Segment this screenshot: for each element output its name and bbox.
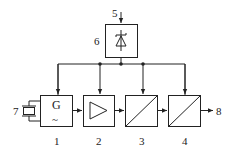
block-2-amplifier xyxy=(84,96,115,127)
generator-symbol: G xyxy=(52,98,61,112)
label-7: 7 xyxy=(13,105,19,117)
label-4: 4 xyxy=(182,135,188,147)
label-2: 2 xyxy=(96,135,102,147)
generator-tilde: ~ xyxy=(52,113,58,125)
label-8: 8 xyxy=(216,105,222,117)
converter-diagonal-icon xyxy=(126,96,158,127)
block-diagram: 5 6 G ~ 7 8 1 2 3 4 xyxy=(0,0,236,157)
label-6: 6 xyxy=(94,35,100,47)
label-1: 1 xyxy=(54,135,60,147)
converter-diagonal-icon xyxy=(169,96,201,127)
crystal-resonator-icon xyxy=(22,101,40,121)
zener-diode-icon xyxy=(116,30,126,51)
label-5: 5 xyxy=(112,7,118,19)
amplifier-triangle-icon xyxy=(90,102,107,119)
label-3: 3 xyxy=(139,135,145,147)
supply-bus xyxy=(58,64,185,95)
